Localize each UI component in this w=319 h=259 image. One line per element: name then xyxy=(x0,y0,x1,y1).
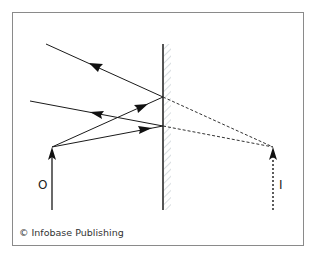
object-arrow xyxy=(48,147,56,210)
object-label: O xyxy=(38,178,47,192)
virtual-ray-lower xyxy=(163,126,273,147)
diagram-svg xyxy=(0,0,319,259)
publisher-credit: © Infobase Publishing xyxy=(19,227,124,238)
virtual-ray-upper xyxy=(163,97,273,147)
image-arrow xyxy=(269,147,277,210)
reflected-ray-upper xyxy=(46,44,163,97)
image-label: I xyxy=(279,178,283,192)
diagram-canvas: O I © Infobase Publishing xyxy=(0,0,319,259)
arrowhead-icon xyxy=(89,63,103,72)
figure-frame xyxy=(13,13,304,246)
arrowhead-icon xyxy=(134,104,148,113)
arrowhead-icon xyxy=(138,126,152,134)
